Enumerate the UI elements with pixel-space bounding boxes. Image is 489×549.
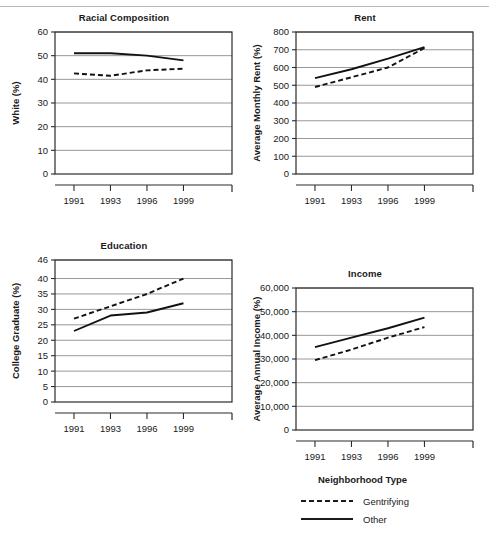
x-axis-tick-label: 1996	[136, 195, 157, 206]
chart-panel-racial-composition: Racial Composition 010203040506019911993…	[8, 12, 240, 217]
chart-canvas-education: 0510152025303540461991199319961999Colleg…	[8, 254, 240, 444]
chart-plot-rent: 0100200300400500600700800199119931996199…	[249, 26, 481, 216]
y-axis-tick-label: 60	[37, 26, 48, 37]
legend-label-gentrifying: Gentrifying	[363, 496, 409, 507]
y-axis-tick-label: 50,000	[260, 306, 289, 317]
y-axis-title: White (%)	[10, 81, 21, 124]
series-line-gentrifying	[74, 69, 183, 76]
y-axis-tick-label: 20	[37, 121, 48, 132]
series-line-gentrifying	[74, 279, 183, 319]
y-axis-tick-label: 10	[37, 366, 48, 377]
x-axis-tick-label: 1991	[63, 423, 84, 434]
legend-label-other: Other	[363, 514, 387, 525]
y-axis-tick-label: 500	[273, 80, 289, 91]
x-axis-tick-label: 1993	[341, 195, 362, 206]
chart-panel-rent: Rent 01002003004005006007008001991199319…	[249, 12, 481, 240]
y-axis-tick-label: 15	[37, 350, 48, 361]
x-axis-tick-label: 1996	[377, 451, 398, 462]
y-axis-tick-label: 40,000	[260, 330, 289, 341]
x-axis-tick-label: 1991	[304, 451, 325, 462]
chart-canvas-rent: 0100200300400500600700800199119931996199…	[249, 26, 481, 216]
x-axis-tick-label: 1991	[63, 195, 84, 206]
y-axis-title: College Graduate (%)	[10, 283, 21, 379]
y-axis-tick-label: 20	[37, 335, 48, 346]
y-axis-tick-label: 600	[273, 62, 289, 73]
series-line-other	[74, 303, 183, 331]
legend-title: Neighborhood Type	[300, 474, 485, 485]
x-axis-tick-label: 1999	[414, 451, 435, 462]
y-axis-tick-label: 46	[37, 254, 48, 265]
y-axis-tick-label: 50	[37, 50, 48, 61]
y-axis-tick-label: 60,000	[260, 282, 289, 293]
chart-panel-education: Education 051015202530354046199119931996…	[8, 240, 240, 468]
chart-title-racial-composition: Racial Composition	[8, 12, 240, 24]
x-axis-tick-label: 1999	[173, 423, 194, 434]
chart-title-income: Income	[249, 268, 481, 280]
figure-legend: Neighborhood Type Gentrifying Other	[300, 474, 485, 528]
plot-frame	[55, 260, 232, 402]
y-axis-tick-label: 40	[37, 74, 48, 85]
chart-plot-income: 010,00020,00030,00040,00050,00060,000199…	[249, 282, 481, 472]
y-axis-tick-label: 200	[273, 133, 289, 144]
chart-canvas-racial-composition: 01020304050601991199319961999White (%)	[8, 26, 240, 216]
chart-plot-education: 0510152025303540461991199319961999Colleg…	[8, 254, 240, 444]
legend-entry-other: Other	[300, 510, 485, 528]
x-axis-tick-label: 1996	[136, 423, 157, 434]
chart-title-education: Education	[8, 240, 240, 252]
y-axis-tick-label: 400	[273, 97, 289, 108]
y-axis-tick-label: 30,000	[260, 353, 289, 364]
x-axis-tick-label: 1991	[304, 195, 325, 206]
x-axis-tick-label: 1993	[100, 195, 121, 206]
y-axis-tick-label: 30	[37, 97, 48, 108]
y-axis-tick-label: 0	[43, 396, 48, 407]
page-top-rule	[0, 6, 489, 7]
series-line-other	[315, 47, 424, 78]
y-axis-tick-label: 20,000	[260, 377, 289, 388]
y-axis-tick-label: 10,000	[260, 401, 289, 412]
y-axis-tick-label: 0	[284, 168, 289, 179]
y-axis-tick-label: 0	[284, 424, 289, 435]
y-axis-tick-label: 10	[37, 145, 48, 156]
y-axis-tick-label: 300	[273, 115, 289, 126]
x-axis-tick-label: 1993	[100, 423, 121, 434]
legend-swatch-solid-icon	[300, 514, 354, 524]
y-axis-tick-label: 700	[273, 44, 289, 55]
chart-plot-racial: 01020304050601991199319961999White (%)	[8, 26, 240, 216]
y-axis-tick-label: 35	[37, 288, 48, 299]
y-axis-tick-label: 0	[43, 168, 48, 179]
x-axis-tick-label: 1999	[173, 195, 194, 206]
chart-panel-income: Income 010,00020,00030,00040,00050,00060…	[249, 268, 481, 473]
legend-swatch-dashed-icon	[300, 496, 354, 506]
y-axis-tick-label: 30	[37, 304, 48, 315]
series-line-other	[74, 53, 183, 60]
y-axis-tick-label: 25	[37, 319, 48, 330]
chart-canvas-income: 010,00020,00030,00040,00050,00060,000199…	[249, 282, 481, 472]
x-axis-tick-label: 1996	[377, 195, 398, 206]
y-axis-tick-label: 5	[43, 381, 48, 392]
y-axis-title: Average Annual Income (%)	[251, 297, 262, 422]
chart-title-rent: Rent	[249, 12, 481, 24]
y-axis-tick-label: 100	[273, 151, 289, 162]
x-axis-tick-label: 1993	[341, 451, 362, 462]
x-axis-tick-label: 1999	[414, 195, 435, 206]
y-axis-title: Average Monthly Rent (%)	[251, 44, 262, 161]
legend-entry-gentrifying: Gentrifying	[300, 492, 485, 510]
y-axis-tick-label: 800	[273, 26, 289, 37]
y-axis-tick-label: 40	[37, 273, 48, 284]
